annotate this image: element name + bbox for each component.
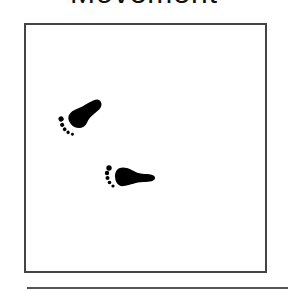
separator-line (27, 287, 288, 289)
footprint-icon (103, 160, 157, 192)
footprint-icon (54, 94, 108, 138)
card-title: Movement (0, 0, 288, 8)
picture-frame (24, 23, 267, 273)
